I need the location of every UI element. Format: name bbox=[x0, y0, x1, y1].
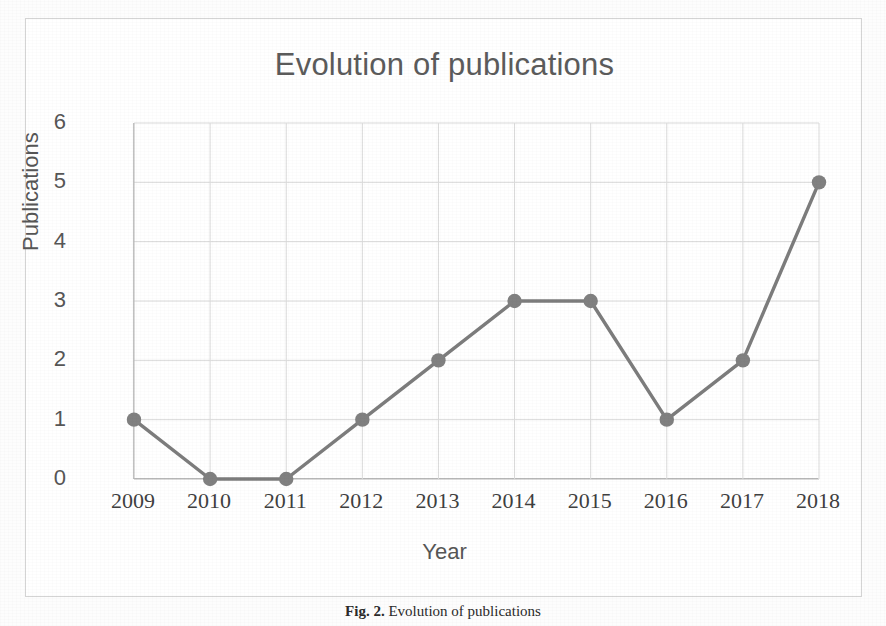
x-tick-label: 2013 bbox=[394, 488, 480, 514]
y-tick-label: 6 bbox=[20, 109, 66, 135]
x-tick-label: 2011 bbox=[242, 488, 328, 514]
x-tick-label: 2012 bbox=[318, 488, 404, 514]
y-tick-label: 2 bbox=[20, 346, 66, 372]
x-tick-label: 2017 bbox=[699, 488, 785, 514]
y-tick-label: 5 bbox=[20, 168, 66, 194]
x-tick-label: 2018 bbox=[775, 488, 861, 514]
data-point bbox=[583, 294, 597, 308]
plot-area bbox=[133, 123, 818, 479]
data-point bbox=[355, 412, 369, 426]
data-point bbox=[736, 353, 750, 367]
y-tick-label: 3 bbox=[20, 287, 66, 313]
data-point bbox=[203, 472, 217, 486]
chart-title: Evolution of publications bbox=[26, 47, 863, 83]
data-point bbox=[431, 353, 445, 367]
data-point bbox=[812, 175, 826, 189]
x-tick-label: 2010 bbox=[166, 488, 252, 514]
x-tick-label: 2015 bbox=[547, 488, 633, 514]
data-point bbox=[279, 472, 293, 486]
figure-caption: Fig. 2. Evolution of publications bbox=[0, 603, 886, 620]
x-tick-label: 2016 bbox=[623, 488, 709, 514]
figure-caption-text: Evolution of publications bbox=[388, 603, 540, 619]
x-tick-label: 2014 bbox=[471, 488, 557, 514]
x-tick-label: 2009 bbox=[90, 488, 176, 514]
y-tick-label: 1 bbox=[20, 406, 66, 432]
y-tick-label: 0 bbox=[20, 465, 66, 491]
line-series-publications bbox=[134, 123, 819, 479]
y-tick-label: 4 bbox=[20, 228, 66, 254]
figure-frame: Evolution of publications Publications Y… bbox=[25, 18, 862, 597]
figure-caption-label: Fig. 2. bbox=[345, 603, 385, 619]
data-point bbox=[507, 294, 521, 308]
x-axis-title: Year bbox=[26, 539, 863, 565]
data-point bbox=[660, 412, 674, 426]
data-point bbox=[127, 412, 141, 426]
